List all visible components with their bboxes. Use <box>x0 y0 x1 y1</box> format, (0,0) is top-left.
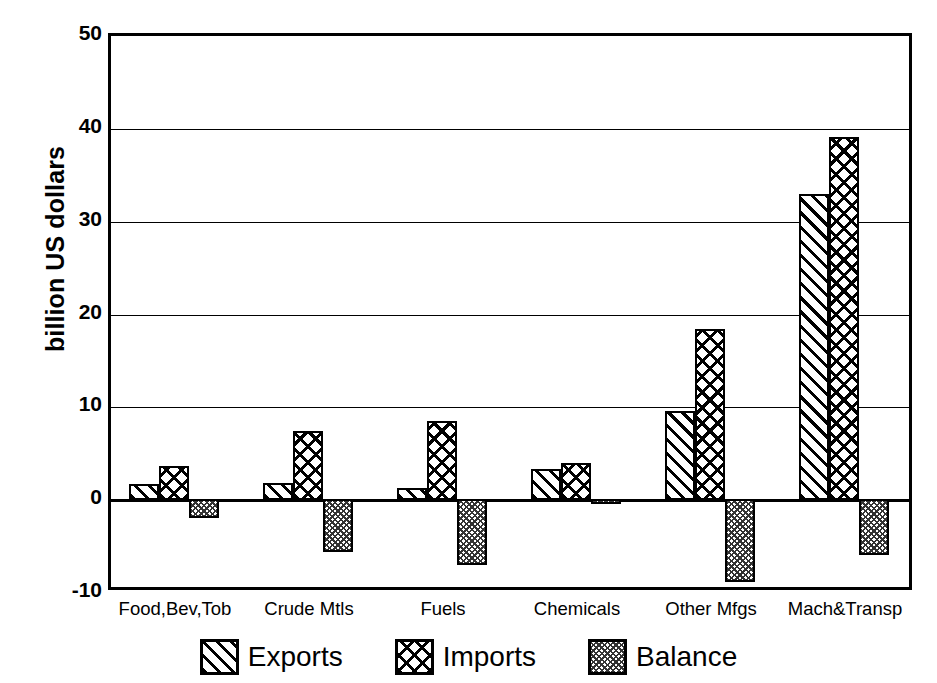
bar-imports-0 <box>159 466 189 500</box>
bar-imports-4 <box>695 329 725 500</box>
legend-swatch-icon <box>200 639 239 675</box>
x-axis-category-label: Crude Mtls <box>242 596 376 622</box>
legend-label: Imports <box>443 641 536 673</box>
x-axis-category-label: Fuels <box>376 596 510 622</box>
bar-imports-1 <box>293 431 323 501</box>
x-axis-category-label: Food,Bev,Tob <box>108 596 242 622</box>
chart-legend: ExportsImportsBalance <box>0 634 937 680</box>
legend-item-imports[interactable]: Imports <box>395 639 536 675</box>
bar-balance-5 <box>859 499 889 556</box>
y-tick-label: 10 <box>40 391 102 417</box>
gridline-30 <box>111 222 909 223</box>
bar-exports-3 <box>531 469 561 501</box>
x-axis-category-label: Other Mfgs <box>644 596 778 622</box>
bar-exports-5 <box>799 194 829 500</box>
y-tick-label: 20 <box>40 299 102 325</box>
x-axis-category-label: Mach&Transp <box>778 596 912 622</box>
y-tick-label: -10 <box>40 577 102 603</box>
y-axis-tick-labels: 50403020100-10 <box>34 0 102 683</box>
bar-imports-2 <box>427 421 457 500</box>
zero-line <box>111 499 909 502</box>
plot-area <box>108 33 912 590</box>
gridline-20 <box>111 315 909 316</box>
y-tick-label: 30 <box>40 206 102 232</box>
legend-item-balance[interactable]: Balance <box>588 639 737 675</box>
bar-imports-3 <box>561 463 591 500</box>
bar-balance-4 <box>725 499 755 583</box>
bar-chart: billion US dollars 50403020100-10 Food,B… <box>0 0 937 683</box>
gridline-10 <box>111 407 909 408</box>
bar-balance-2 <box>457 499 487 566</box>
bar-exports-2 <box>397 488 427 500</box>
bar-balance-0 <box>189 499 219 518</box>
bar-exports-0 <box>129 484 159 500</box>
bar-exports-1 <box>263 483 293 501</box>
x-axis-category-label: Chemicals <box>510 596 644 622</box>
bar-balance-1 <box>323 499 353 553</box>
bar-exports-4 <box>665 411 695 500</box>
legend-item-exports[interactable]: Exports <box>200 639 343 675</box>
legend-label: Balance <box>636 641 737 673</box>
legend-swatch-icon <box>395 639 434 675</box>
bar-imports-5 <box>829 137 859 500</box>
y-tick-label: 0 <box>40 484 102 510</box>
y-tick-label: 40 <box>40 113 102 139</box>
legend-label: Exports <box>248 641 343 673</box>
bar-balance-3 <box>591 499 621 505</box>
y-tick-label: 50 <box>40 20 102 46</box>
legend-swatch-icon <box>588 639 627 675</box>
gridline-40 <box>111 129 909 130</box>
